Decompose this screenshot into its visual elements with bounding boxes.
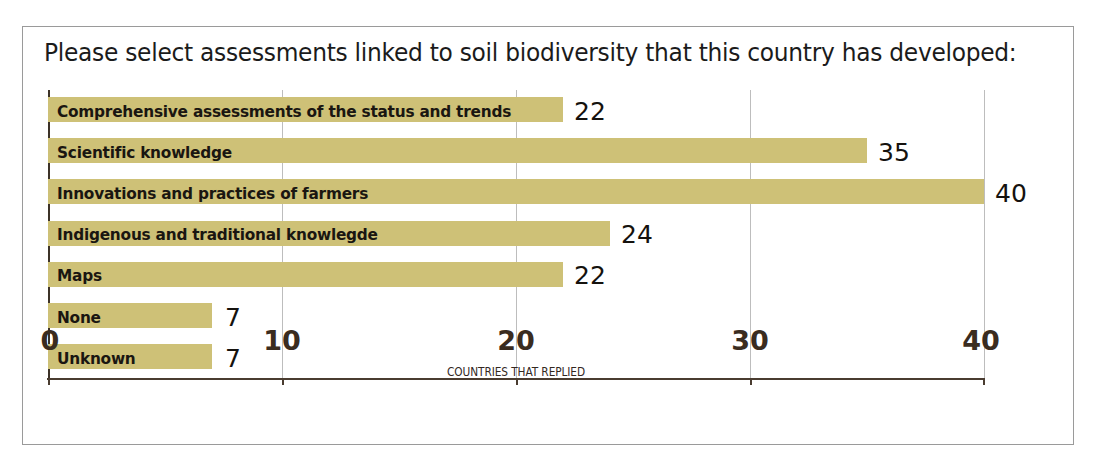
tick-mark xyxy=(282,378,284,385)
tick-mark xyxy=(516,378,518,385)
bar[interactable] xyxy=(48,262,563,287)
bar-value-label: 22 xyxy=(574,96,606,125)
tick-mark xyxy=(750,378,752,385)
bar-value-label: 22 xyxy=(574,261,606,290)
x-tick-label: 10 xyxy=(263,325,301,356)
bar-category-label: Comprehensive assessments of the status … xyxy=(57,101,511,120)
x-tick-label: 40 xyxy=(962,325,1000,356)
bar-category-label: Indigenous and traditional knowlegde xyxy=(57,225,378,244)
x-axis-title: COUNTRIES THAT REPLIED xyxy=(85,365,946,379)
bar-value-label: 7 xyxy=(225,343,241,372)
bar-category-label: Innovations and practices of farmers xyxy=(57,183,368,202)
x-tick-label: 30 xyxy=(731,325,769,356)
bar-value-label: 7 xyxy=(225,302,241,331)
tick-mark xyxy=(983,378,985,385)
tick-mark xyxy=(48,378,50,385)
x-tick-label: 20 xyxy=(497,325,535,356)
chart-figure: Please select assessments linked to soil… xyxy=(22,26,1074,445)
bar-category-label: None xyxy=(57,307,101,326)
bar-category-label: Unknown xyxy=(57,348,136,367)
bar-value-label: 35 xyxy=(878,137,910,166)
bar-category-label: Maps xyxy=(57,266,102,285)
chart-title: Please select assessments linked to soil… xyxy=(44,37,1016,67)
bar-category-label: Scientific knowledge xyxy=(57,142,232,161)
bar-value-label: 40 xyxy=(995,178,1027,207)
bar-value-label: 24 xyxy=(621,220,653,249)
